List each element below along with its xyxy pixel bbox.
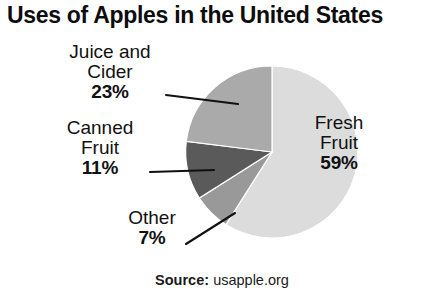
source-note: Source: usapple.org xyxy=(0,272,444,288)
pie-label-juice-and-cider-line2: Cider xyxy=(34,62,186,82)
pie-label-other-line1: Other xyxy=(104,208,200,228)
pie-label-juice-and-cider-line1: Juice and xyxy=(34,42,186,62)
pie-slice-juice-and-cider xyxy=(186,66,272,152)
pie-label-fresh-fruit-line1: Fresh xyxy=(287,113,391,133)
pie-label-fresh-fruit: Fresh Fruit 59% xyxy=(287,113,391,173)
pie-chart-figure: Uses of Apples in the United States Juic… xyxy=(0,0,444,305)
pie-label-fresh-fruit-value: 59% xyxy=(287,153,391,173)
pie-label-canned-fruit-line2: Fruit xyxy=(24,138,176,158)
pie-label-canned-fruit-line1: Canned xyxy=(24,118,176,138)
pie-label-juice-and-cider-value: 23% xyxy=(34,82,186,102)
pie-label-canned-fruit-value: 11% xyxy=(24,158,176,178)
pie-label-fresh-fruit-line2: Fruit xyxy=(287,133,391,153)
source-label: Source: xyxy=(155,272,209,288)
pie-label-canned-fruit: Canned Fruit 11% xyxy=(24,118,176,178)
pie-label-other-value: 7% xyxy=(104,228,200,248)
pie-label-juice-and-cider: Juice and Cider 23% xyxy=(34,42,186,102)
pie-label-other: Other 7% xyxy=(104,208,200,248)
source-value: usapple.org xyxy=(213,272,289,288)
